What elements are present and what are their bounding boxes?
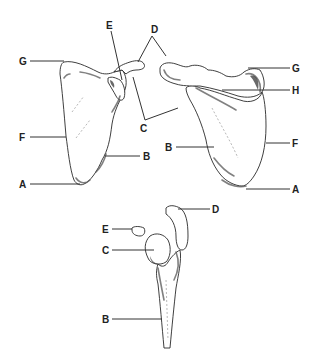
label-anterior-G: G [19,56,27,67]
label-anterior-E: E [106,20,113,31]
lateral-view [132,206,188,348]
label-lateral-C: C [102,245,109,256]
label-anterior-D: D [151,24,158,35]
label-anterior-F: F [19,132,25,143]
label-lateral-B: B [102,314,109,325]
label-posterior-A: A [292,184,299,195]
scapula-diagram: G E D C F B A G H B F A D E C B [0,0,314,353]
label-posterior-G: G [292,63,300,74]
lateral-scapula-blade [157,250,181,348]
leader-anterior-D [138,36,166,62]
posterior-view [160,63,266,187]
label-lateral-E: E [102,224,109,235]
label-lateral-D: D [212,204,219,215]
diagram-canvas: G E D C F B A G H B F A D E C B [0,0,314,353]
label-anterior-A: A [19,179,26,190]
anterior-view [60,61,145,185]
label-posterior-B: B [165,142,172,153]
label-posterior-F: F [292,138,298,149]
label-anterior-C: C [140,123,147,134]
lateral-coracoid [132,227,145,237]
lateral-glenoid-cavity [145,234,170,264]
leader-anterior-C [133,77,178,120]
label-posterior-H: H [292,85,299,96]
label-anterior-B: B [143,151,150,162]
